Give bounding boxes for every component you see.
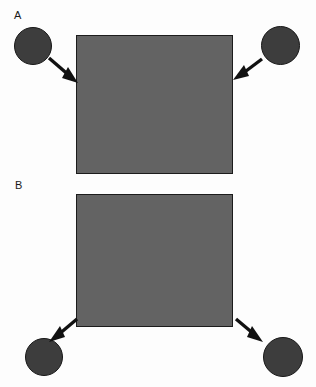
panel-a-rectangle bbox=[76, 35, 233, 174]
panel-label-b: B bbox=[15, 180, 23, 191]
panel-a-circle-left bbox=[14, 27, 52, 65]
panel-a-left-arrow-icon bbox=[49, 58, 78, 83]
panel-a-circle-right bbox=[261, 26, 300, 65]
panel-b-right-arrow-icon bbox=[236, 319, 263, 342]
panel-label-a: A bbox=[14, 10, 22, 21]
figure-canvas: A B bbox=[0, 0, 316, 387]
panel-b-circle-left bbox=[25, 338, 63, 376]
panel-b-rectangle bbox=[76, 194, 233, 327]
panel-b-circle-right bbox=[263, 337, 303, 377]
panel-b-left-arrow-icon bbox=[49, 319, 77, 342]
panel-a-right-arrow-icon bbox=[233, 59, 262, 80]
